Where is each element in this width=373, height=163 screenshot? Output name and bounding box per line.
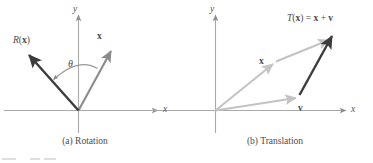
translation-sum-operand-a: x xyxy=(314,13,319,23)
rotation-theta-arc xyxy=(54,65,98,80)
rotation-rx-func: R xyxy=(13,35,19,45)
panel-rotation-graphics xyxy=(4,15,158,133)
translation-sum-func: T xyxy=(287,13,292,23)
rotation-y-axis-label: y xyxy=(73,5,77,15)
clipped-text-artifact-right xyxy=(44,158,56,160)
rotation-vector-x-label: x xyxy=(97,32,102,42)
translation-sum-label: T(x) = x + v xyxy=(287,14,333,24)
clipped-text-artifact-mid xyxy=(30,158,40,160)
rotation-x-axis-label: x xyxy=(163,105,167,115)
translation-sum-plus: + xyxy=(321,13,326,23)
caption-translation: (b) Translation xyxy=(190,136,360,146)
translation-vector-x-label: x xyxy=(259,57,264,67)
figure-container: x y x R(x) θ (a) Rotation x y x v T(x) =… xyxy=(0,0,373,163)
translation-y-axis-label: y xyxy=(210,5,214,15)
clipped-text-artifact-left xyxy=(2,158,16,160)
rotation-rx-arg: x xyxy=(22,35,27,45)
translation-sum-operand-b: v xyxy=(328,13,333,23)
translation-sum-arg: x xyxy=(295,13,300,23)
translation-vector-v-label: v xyxy=(298,104,303,114)
translation-x-axis-label: x xyxy=(351,105,355,115)
translation-sum-equals: = xyxy=(306,13,311,23)
rotation-theta-label: θ xyxy=(68,59,73,69)
rotation-vector-x xyxy=(79,51,112,111)
rotation-vector-rx-label: R(x) xyxy=(13,36,30,46)
caption-rotation: (a) Rotation xyxy=(0,136,170,146)
panel-translation-graphics xyxy=(148,15,346,133)
